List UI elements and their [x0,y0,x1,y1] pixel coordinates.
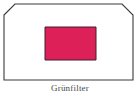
figure-container: Grünfilter [0,0,140,93]
figure-caption: Grünfilter [0,83,140,93]
figure-graphic [0,0,140,93]
color-swatch [45,27,96,60]
